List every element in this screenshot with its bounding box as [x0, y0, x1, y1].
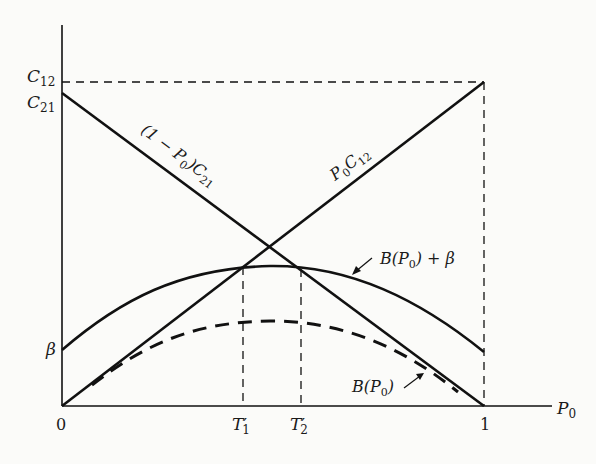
curve-b [92, 321, 458, 392]
arrow-b-icon [404, 376, 420, 388]
arrowhead-icon [352, 266, 361, 275]
tick-c21: C21 [27, 92, 55, 115]
tick-one: 1 [480, 415, 490, 434]
label-b-plus-beta: B(P0) + β [379, 249, 455, 271]
diagram-canvas: C12 C21 β 0 1 T′1 T′2 P0 (1 − P0)C21 P0C… [0, 0, 596, 464]
label-b: B(P0) [351, 377, 394, 399]
curve-b-plus-beta [62, 266, 484, 352]
x-axis-label: P0 [556, 398, 576, 421]
tick-beta: β [45, 339, 56, 359]
line-p0-c12 [62, 82, 484, 406]
tick-t1: T′1 [232, 414, 250, 437]
tick-zero: 0 [56, 415, 66, 434]
arrowhead-icon [416, 373, 424, 380]
tick-t2: T′2 [290, 414, 308, 437]
label-p0-c12: P0C12 [325, 143, 374, 188]
tick-c12: C12 [27, 66, 55, 89]
